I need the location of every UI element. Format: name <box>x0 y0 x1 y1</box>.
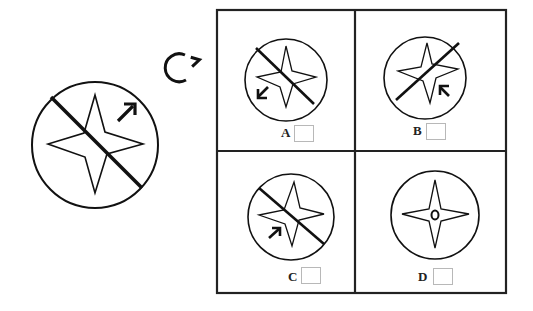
option-a-checkbox[interactable] <box>294 125 314 142</box>
option-a-arrow-icon <box>258 87 268 98</box>
option-c-checkbox[interactable] <box>301 267 321 284</box>
option-c-arrow-icon <box>269 228 280 238</box>
option-d-checkbox[interactable] <box>433 268 453 285</box>
clockwise-rotate-icon <box>165 54 199 82</box>
option-d-figure[interactable] <box>391 171 479 259</box>
option-c-label: C <box>288 270 297 284</box>
source-figure <box>32 82 158 208</box>
puzzle-canvas <box>0 0 533 311</box>
option-b-label: B <box>413 124 422 138</box>
option-c-figure[interactable] <box>248 174 334 260</box>
option-b-figure[interactable] <box>384 37 466 119</box>
source-arrow-icon <box>118 104 135 121</box>
option-d-label: D <box>418 270 427 284</box>
option-d-center-circle-icon <box>432 211 439 220</box>
option-b-arrow-icon <box>440 86 449 96</box>
option-b-checkbox[interactable] <box>426 123 446 140</box>
option-a-label: A <box>281 126 290 140</box>
option-a-figure[interactable] <box>245 39 327 121</box>
